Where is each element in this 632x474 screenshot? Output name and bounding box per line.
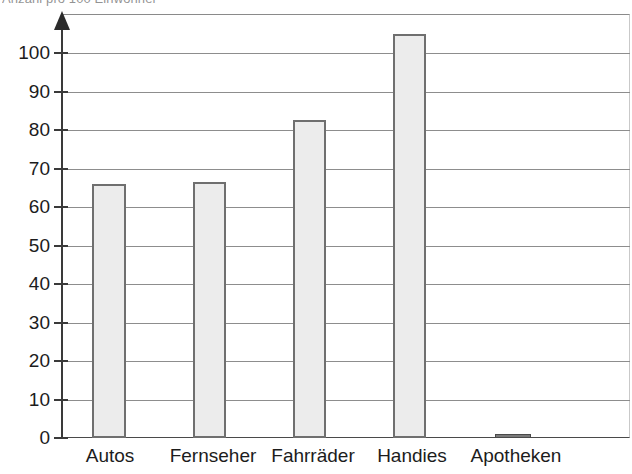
gridline bbox=[62, 92, 630, 93]
bar-fahrräder bbox=[293, 120, 326, 438]
plot-area-frame bbox=[62, 14, 630, 438]
y-axis-tick bbox=[54, 206, 68, 208]
y-axis-tick bbox=[54, 52, 68, 54]
bar-handies bbox=[393, 34, 426, 438]
y-axis-tick-label: 60 bbox=[2, 197, 50, 216]
gridline bbox=[62, 400, 630, 401]
y-axis-tick bbox=[54, 129, 68, 131]
gridline bbox=[62, 207, 630, 208]
gridline bbox=[62, 169, 630, 170]
bar-chart-figure: Anzahl pro 100 Einwohner 010203040506070… bbox=[0, 0, 632, 474]
y-axis-tick-label: 50 bbox=[2, 236, 50, 255]
gridline bbox=[62, 323, 630, 324]
y-axis-tick-label: 40 bbox=[2, 274, 50, 293]
y-axis-labels-group: 0102030405060708090100 bbox=[0, 0, 50, 474]
y-axis-line bbox=[61, 15, 63, 439]
gridline bbox=[62, 361, 630, 362]
bar-fernseher bbox=[193, 182, 226, 438]
y-axis-tick bbox=[54, 399, 68, 401]
y-axis-tick-label: 90 bbox=[2, 82, 50, 101]
x-axis-labels-group: AutosFernseherFahrräderHandiesApotheken bbox=[0, 445, 632, 474]
gridline bbox=[62, 284, 630, 285]
gridline bbox=[62, 130, 630, 131]
y-axis-tick bbox=[54, 245, 68, 247]
y-axis-tick bbox=[54, 91, 68, 93]
y-axis-tick bbox=[54, 360, 68, 362]
y-axis-tick-label: 70 bbox=[2, 159, 50, 178]
y-axis-tick-label: 100 bbox=[2, 43, 50, 62]
y-axis-tick bbox=[54, 322, 68, 324]
y-axis-tick-label: 30 bbox=[2, 313, 50, 332]
y-axis-tick bbox=[54, 168, 68, 170]
y-axis-tick-label: 20 bbox=[2, 351, 50, 370]
gridline bbox=[62, 246, 630, 247]
y-axis-tick-label: 10 bbox=[2, 390, 50, 409]
x-axis-label-apotheken: Apotheken bbox=[446, 445, 586, 467]
bar-autos bbox=[92, 184, 126, 438]
gridline bbox=[62, 53, 630, 54]
y-axis-tick bbox=[54, 283, 68, 285]
y-axis-arrow-icon bbox=[54, 11, 70, 30]
y-axis-tick-label: 80 bbox=[2, 120, 50, 139]
y-axis-tick bbox=[54, 437, 68, 439]
bar-apotheken bbox=[495, 434, 531, 438]
